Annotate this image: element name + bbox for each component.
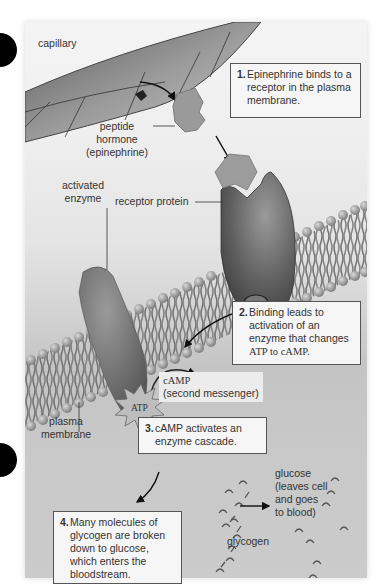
bound-hormone-shape: [215, 154, 257, 190]
label-camp-line1: cAMP: [163, 374, 259, 387]
label-glucose: glucose (leaves cell and goes to blood): [275, 467, 328, 519]
page-marker-bullet-bottom: [0, 443, 17, 477]
label-activated-enzyme-line1: activated: [57, 179, 109, 192]
step-1-number: 1.: [237, 68, 246, 81]
label-plasma-membrane-line2: membrane: [39, 428, 93, 441]
label-activated-enzyme-line2: enzyme: [57, 192, 109, 205]
label-glucose-line4: to blood): [275, 506, 328, 519]
label-peptide-hormone-line1: peptide hormone: [79, 120, 155, 146]
step-3-number: 3.: [145, 422, 154, 435]
step-2-number: 2.: [239, 306, 248, 319]
label-glucose-line3: and goes: [275, 493, 328, 506]
step-2-box: 2. Binding leads to activation of an enz…: [232, 301, 361, 365]
glycogen-molecules: [216, 481, 249, 572]
step-4-line: Many molecules of: [70, 516, 175, 529]
step-1-box: 1. Epinephrine binds to a receptor in th…: [230, 63, 361, 118]
label-plasma-membrane: plasma membrane: [39, 415, 93, 441]
label-glycogen: glycogen: [227, 535, 269, 548]
step-4-line: down to glucose,: [70, 542, 175, 555]
label-camp-line2: (second messenger): [163, 387, 259, 400]
step-3-line: enzyme cascade.: [155, 435, 260, 448]
step-2-line: enzyme that changes: [249, 332, 354, 345]
label-peptide-hormone: peptide hormone (epinephrine): [79, 120, 155, 159]
step-4-line: glycogen are broken: [70, 529, 175, 542]
step-4-box: 4. Many molecules of glycogen are broken…: [53, 511, 182, 584]
diagram-panel: capillary peptide hormone (epinephrine) …: [25, 22, 367, 578]
label-plasma-membrane-line1: plasma: [39, 415, 93, 428]
step-4-line: bloodstream.: [70, 568, 175, 581]
label-activated-enzyme: activated enzyme: [57, 179, 109, 205]
label-receptor-protein: receptor protein: [115, 195, 189, 208]
step-2-line: Binding leads to: [249, 306, 354, 319]
label-peptide-hormone-line2: (epinephrine): [79, 146, 155, 159]
step-1-line: Epinephrine binds to a: [247, 68, 354, 81]
step-1-line: receptor in the plasma: [247, 81, 354, 94]
label-camp: cAMP (second messenger): [159, 372, 263, 402]
step-2-line: activation of an: [249, 319, 354, 332]
step-2-line: ATP to cAMP.: [249, 345, 354, 358]
label-glucose-line1: glucose: [275, 467, 328, 480]
step-1-line: membrane.: [247, 94, 354, 107]
page-marker-bullet-top: [0, 33, 17, 67]
label-glucose-line2: (leaves cell: [275, 480, 328, 493]
arrow-cascade-to-glycogen: [137, 472, 159, 502]
label-capillary: capillary: [38, 37, 77, 50]
step-3-box: 3. cAMP activates an enzyme cascade.: [138, 417, 267, 454]
step-4-line: which enters the: [70, 555, 175, 568]
peptide-hormone-shape: [173, 88, 205, 132]
step-4-number: 4.: [60, 516, 69, 529]
step-3-line: cAMP activates an: [155, 422, 260, 435]
label-atp: ATP: [131, 402, 148, 415]
